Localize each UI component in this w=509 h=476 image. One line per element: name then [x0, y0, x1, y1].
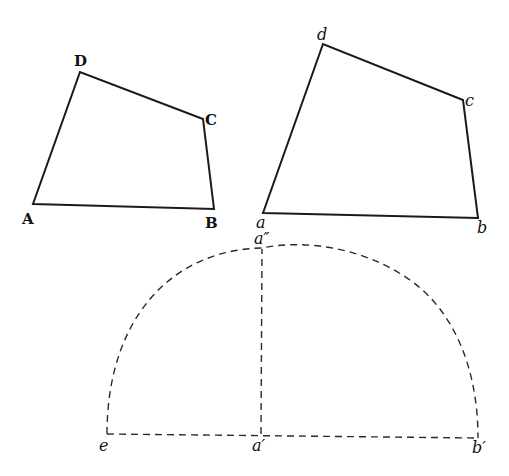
semicircle-arc — [107, 245, 478, 438]
label-c: c — [465, 91, 474, 110]
quadrilateral-ABCD — [33, 72, 214, 209]
label-a-double-prime: a″ — [254, 229, 270, 248]
quadrilateral-abcd — [263, 44, 478, 218]
geometry-figure: A B C D a b c d e a′ b′ a″ — [0, 0, 509, 476]
perpendicular-a1-a2 — [261, 249, 262, 434]
label-b-prime: b′ — [472, 438, 486, 457]
label-e: e — [99, 436, 108, 455]
label-D: D — [74, 52, 87, 70]
label-A: A — [21, 210, 34, 228]
label-a-prime: a′ — [252, 436, 266, 455]
label-B: B — [205, 214, 218, 232]
baseline-e-b1 — [107, 434, 478, 438]
label-b: b — [477, 218, 487, 237]
label-C: C — [205, 111, 217, 129]
label-d: d — [317, 25, 327, 44]
